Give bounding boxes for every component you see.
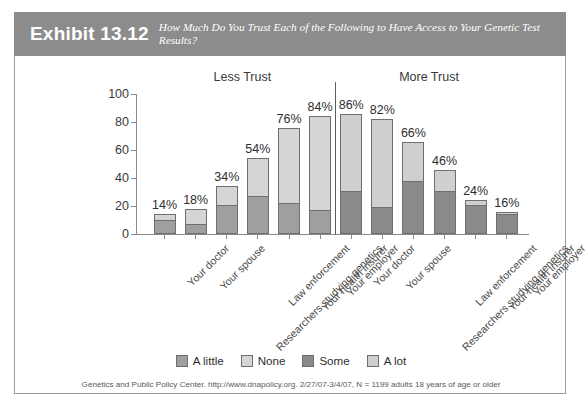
exhibit-container: Exhibit 13.12 How Much Do You Trust Each… [14,12,566,394]
bar[interactable]: 66% [402,142,424,234]
legend-item-a-little[interactable]: A little [176,354,224,367]
y-axis-line [136,94,137,235]
x-axis-tick [164,234,165,239]
bar-value-label: 54% [245,142,270,156]
bar-value-label: 18% [183,193,208,207]
bar-segment-a-little [278,203,300,234]
bar-segment-none [216,186,238,204]
y-axis-tick [131,122,137,123]
bar-segment-a-lot [340,114,362,191]
bar-segment-none [185,209,207,224]
group-title-less-trust: Less Trust [213,70,271,84]
group-title-more-trust: More Trust [399,70,459,84]
y-axis-tick [131,178,137,179]
x-axis-tick [320,234,321,239]
exhibit-number: Exhibit 13.12 [30,23,149,45]
x-axis-tick [195,234,196,239]
bar-segment-some [402,181,424,234]
y-axis-tick-label: 80 [115,115,129,129]
plot-region: 020406080100 Less TrustMore Trust 14%18%… [137,94,529,234]
legend-swatch-icon [302,355,314,367]
legend-item-some[interactable]: Some [302,354,349,367]
bar-segment-some [434,191,456,234]
y-axis-tick-label: 40 [115,171,129,185]
x-axis-tick [506,234,507,239]
x-axis-tick [382,234,383,239]
x-axis-tick [413,234,414,239]
bar-segment-some [340,191,362,234]
exhibit-subtitle: How Much Do You Trust Each of the Follow… [159,21,556,48]
bar-value-label: 16% [494,196,519,210]
bar-segment-none [247,158,269,196]
x-axis-tick [226,234,227,239]
x-axis-tick [475,234,476,239]
bar[interactable]: 82% [371,119,393,234]
bar-value-label: 76% [276,112,301,126]
y-axis-tick-label: 100 [108,87,129,101]
bar-value-label: 46% [432,154,457,168]
y-axis-tick-label: 20 [115,199,129,213]
bar[interactable]: 34% [216,186,238,234]
exhibit-body-panel: 020406080100 Less TrustMore Trust 14%18%… [14,56,566,394]
bar[interactable]: 16% [496,212,518,234]
bar-segment-none [278,128,300,204]
bar-value-label: 86% [339,98,364,112]
bar[interactable]: 24% [465,200,487,234]
legend-label: None [258,354,286,367]
legend-item-none[interactable]: None [241,354,286,367]
bar-value-label: 34% [214,170,239,184]
legend-swatch-icon [367,355,379,367]
bar-segment-a-lot [371,119,393,207]
bar[interactable]: 76% [278,128,300,234]
x-axis-tick [289,234,290,239]
bar-value-label: 84% [308,100,333,114]
bar-segment-a-lot [402,142,424,181]
bar-value-label: 24% [463,184,488,198]
bar-segment-a-little [309,210,331,234]
y-axis-tick [131,206,137,207]
legend-label: Some [319,354,349,367]
bar[interactable]: 84% [309,116,331,234]
bar-segment-a-little [154,220,176,234]
y-axis-tick [131,150,137,151]
bar-segment-a-little [185,224,207,234]
bar-segment-a-lot [434,170,456,191]
bar-value-label: 82% [370,103,395,117]
y-axis-tick [131,234,137,235]
legend-item-a-lot[interactable]: A lot [367,354,407,367]
chart-area: 020406080100 Less TrustMore Trust 14%18%… [15,56,567,394]
x-axis-category-label: Your health insurer [506,242,577,313]
bar[interactable]: 18% [185,209,207,234]
bar-segment-none [309,116,331,210]
x-axis-tick [257,234,258,239]
bar[interactable]: 14% [154,214,176,234]
legend-label: A little [193,354,224,367]
y-axis-tick-label: 60 [115,143,129,157]
x-axis-tick [444,234,445,239]
source-note: Genetics and Public Policy Center. http:… [15,380,567,389]
bar[interactable]: 46% [434,170,456,234]
legend-swatch-icon [241,355,253,367]
bar-value-label: 66% [401,126,426,140]
exhibit-header-banner: Exhibit 13.12 How Much Do You Trust Each… [14,12,566,56]
bar-segment-a-little [216,205,238,234]
group-divider-line [335,82,336,235]
chart-legend: A littleNoneSomeA lot [15,354,567,367]
legend-swatch-icon [176,355,188,367]
bar[interactable]: 54% [247,158,269,234]
y-axis-tick [131,94,137,95]
bar-segment-a-little [247,196,269,234]
bar-segment-some [465,205,487,234]
bar[interactable]: 86% [340,114,362,234]
x-axis-tick [351,234,352,239]
bar-value-label: 14% [152,198,177,212]
y-axis-tick-label: 0 [122,227,129,241]
bar-segment-some [496,214,518,234]
bar-segment-some [371,207,393,234]
legend-label: A lot [384,354,407,367]
